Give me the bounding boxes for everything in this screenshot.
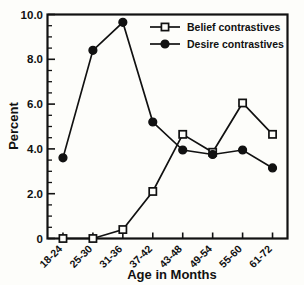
y-tick-label: 8.0	[27, 53, 43, 65]
x-axis-title: Age in Months	[127, 267, 217, 282]
x-tick-label: 25-30	[67, 242, 95, 270]
data-point	[149, 118, 157, 126]
data-point	[119, 18, 127, 26]
y-tick-label: 2.0	[27, 188, 43, 200]
y-tick-label: 6.0	[27, 98, 43, 110]
data-point	[209, 151, 217, 159]
data-point	[59, 235, 66, 242]
chart-figure: 02.04.06.08.010.0 18-2425-3031-3637-4243…	[0, 0, 304, 285]
data-point	[269, 164, 277, 172]
series-layer	[59, 18, 276, 242]
y-tick-label: 4.0	[27, 143, 43, 155]
series-line-1	[63, 103, 273, 239]
y-axis: 02.04.06.08.010.0	[21, 9, 55, 245]
y-tick-label: 0	[37, 233, 43, 245]
data-point	[179, 131, 186, 138]
x-tick-label: 31-36	[97, 242, 125, 270]
data-point	[239, 146, 247, 154]
x-tick-label: 43-48	[157, 242, 185, 270]
data-point	[149, 188, 156, 195]
x-tick-label: 49-54	[187, 242, 215, 270]
x-tick-label: 61-72	[246, 242, 274, 270]
legend-marker-filled-circle-icon	[161, 40, 169, 48]
data-point	[239, 99, 246, 106]
line-chart-svg: 02.04.06.08.010.0 18-2425-3031-3637-4243…	[0, 0, 304, 285]
data-point	[119, 226, 126, 233]
y-tick-label: 10.0	[21, 9, 43, 21]
data-point	[179, 146, 187, 154]
legend-marker-open-square-icon	[161, 23, 168, 30]
legend-label: Belief contrastives	[187, 21, 281, 33]
data-point	[269, 131, 276, 138]
chart-legend: Belief contrastivesDesire contrastives	[150, 21, 284, 50]
data-point	[89, 46, 97, 54]
data-point	[89, 235, 96, 242]
x-tick-label: 37-42	[127, 242, 155, 270]
data-point	[59, 154, 67, 162]
y-axis-title: Percent	[6, 101, 21, 149]
x-tick-label: 18-24	[37, 242, 65, 270]
x-tick-label: 55-60	[217, 242, 245, 270]
legend-label: Desire contrastives	[187, 38, 284, 50]
